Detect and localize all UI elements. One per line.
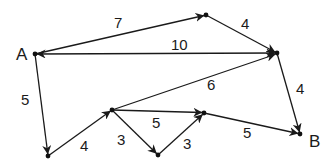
weight-a-bl: 5 [21, 91, 29, 108]
graph-diagram: A B 7 4 10 6 4 5 4 5 3 3 5 [0, 0, 335, 167]
weight-a-r: 10 [171, 36, 188, 53]
weight-t-r: 4 [241, 15, 249, 32]
node-top [204, 13, 209, 18]
node-label-a: A [16, 45, 28, 64]
node-label-b: B [309, 132, 320, 151]
edge-a-bl [35, 54, 48, 154]
weight-r-b: 4 [296, 80, 304, 97]
edge-a-r [37, 53, 275, 54]
node-b [298, 132, 303, 137]
edge-m-r [112, 55, 275, 111]
node-right [275, 51, 280, 56]
weight-a-t: 7 [114, 14, 122, 31]
edge-m-mr [112, 110, 202, 113]
node-bottom-left [46, 154, 51, 159]
edge-bm-mr [158, 115, 203, 156]
node-bottom-middle [156, 153, 161, 158]
node-a [33, 52, 38, 57]
node-middle-right [202, 111, 207, 116]
weight-bl-m: 4 [80, 137, 88, 154]
weight-bm-mr: 3 [183, 135, 191, 152]
weight-mr-b: 5 [243, 124, 251, 141]
weight-m-r: 6 [207, 76, 215, 93]
weight-m-bm: 3 [117, 131, 125, 148]
node-middle [110, 108, 115, 113]
weight-m-mr: 5 [152, 114, 160, 131]
